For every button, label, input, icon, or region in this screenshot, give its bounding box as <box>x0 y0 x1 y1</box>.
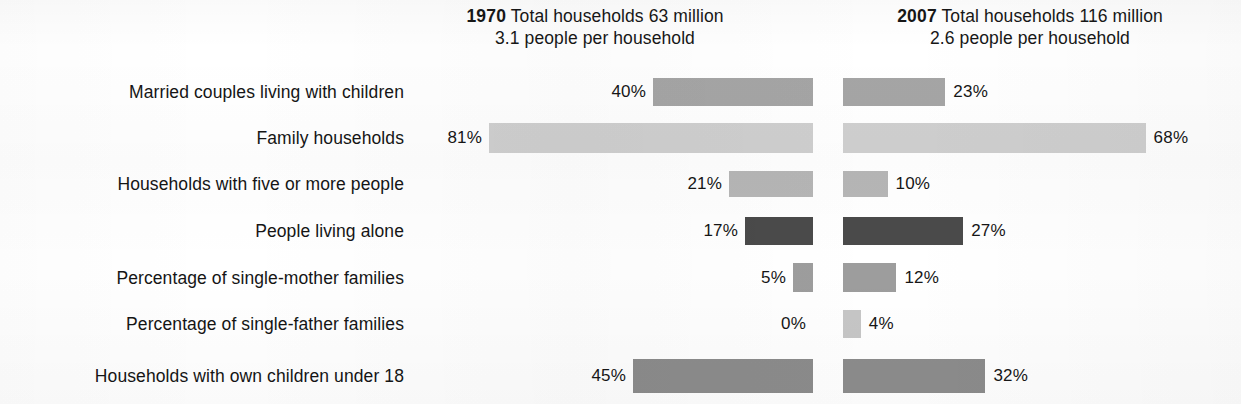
chart-row: People living alone17%27% <box>0 207 1241 254</box>
bar-track-2007: 32% <box>843 352 1241 399</box>
bar-value-label-2007: 68% <box>1154 128 1189 148</box>
bar-2007 <box>843 123 1146 153</box>
bar-value-label-2007: 32% <box>993 366 1028 386</box>
header-year-1970: 1970 <box>466 6 506 26</box>
bar-2007 <box>843 310 861 338</box>
bar-value-label-1970: 5% <box>761 268 786 288</box>
bar-track-2007: 10% <box>843 160 1241 207</box>
header-subtitle-2007-line1: Total households 116 million <box>937 6 1163 26</box>
bar-track-1970: 0% <box>413 300 813 347</box>
bar-2007 <box>843 217 963 245</box>
row-label: Family households <box>0 127 404 148</box>
header-subtitle-2007-line2: 2.6 people per household <box>840 27 1220 49</box>
bar-value-label-2007: 12% <box>904 268 939 288</box>
bar-1970 <box>793 263 813 292</box>
row-label: Households with own children under 18 <box>0 365 404 386</box>
bar-track-2007: 12% <box>843 254 1241 301</box>
bar-value-label-1970: 21% <box>687 174 722 194</box>
bar-value-label-2007: 27% <box>971 221 1006 241</box>
bar-track-1970: 81% <box>413 114 813 161</box>
bar-track-1970: 21% <box>413 160 813 207</box>
bar-value-label-2007: 4% <box>869 314 894 334</box>
bar-1970 <box>633 359 813 393</box>
bar-track-1970: 5% <box>413 254 813 301</box>
bar-1970 <box>729 171 813 197</box>
bar-track-2007: 23% <box>843 68 1241 115</box>
bar-track-1970: 45% <box>413 352 813 399</box>
bar-value-label-1970: 40% <box>611 82 646 102</box>
bar-track-2007: 4% <box>843 300 1241 347</box>
chart-row: Households with own children under 1845%… <box>0 352 1241 399</box>
bar-track-2007: 27% <box>843 207 1241 254</box>
bar-value-label-1970: 0% <box>781 314 806 334</box>
household-comparison-chart: 1970 Total households 63 million 3.1 peo… <box>0 0 1241 404</box>
row-label: Households with five or more people <box>0 173 404 194</box>
header-subtitle-1970-line1: Total households 63 million <box>506 6 723 26</box>
bar-value-label-1970: 81% <box>447 128 482 148</box>
bar-value-label-1970: 17% <box>703 221 738 241</box>
bar-1970 <box>489 123 813 153</box>
column-header-1970: 1970 Total households 63 million 3.1 peo… <box>420 5 770 50</box>
row-label: Percentage of single-mother families <box>0 267 404 288</box>
bar-2007 <box>843 78 945 106</box>
bar-value-label-2007: 23% <box>953 82 988 102</box>
bar-2007 <box>843 359 985 393</box>
row-label: Percentage of single-father families <box>0 313 404 334</box>
bar-track-2007: 68% <box>843 114 1241 161</box>
chart-row: Percentage of single-father families0%4% <box>0 300 1241 347</box>
header-subtitle-1970-line2: 3.1 people per household <box>420 27 770 49</box>
chart-row: Family households81%68% <box>0 114 1241 161</box>
bar-track-1970: 40% <box>413 68 813 115</box>
row-label: Married couples living with children <box>0 81 404 102</box>
chart-row: Households with five or more people21%10… <box>0 160 1241 207</box>
bar-value-label-1970: 45% <box>591 366 626 386</box>
bar-track-1970: 17% <box>413 207 813 254</box>
header-year-2007: 2007 <box>897 6 937 26</box>
bar-value-label-2007: 10% <box>896 174 931 194</box>
chart-row: Percentage of single-mother families5%12… <box>0 254 1241 301</box>
bar-2007 <box>843 263 896 292</box>
chart-row: Married couples living with children40%2… <box>0 68 1241 115</box>
bar-2007 <box>843 171 888 197</box>
row-label: People living alone <box>0 220 404 241</box>
column-header-2007: 2007 Total households 116 million 2.6 pe… <box>840 5 1220 50</box>
bar-1970 <box>745 217 813 245</box>
bar-1970 <box>653 78 813 106</box>
